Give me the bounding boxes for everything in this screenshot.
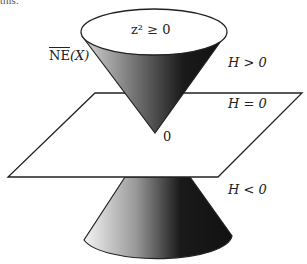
label-ne-arg: (X) [70,48,89,63]
label-origin: 0 [163,129,171,144]
cone-diagram: this. [0,0,307,264]
label-ne-main: NE [49,48,70,63]
label-z-squared: z² ≥ 0 [131,22,171,37]
label-h-zero: H = 0 [228,96,267,111]
lower-cone [84,177,232,259]
label-ne-x: NE(X) [49,48,89,63]
label-h-negative: H < 0 [228,182,267,197]
diagram-graphic [0,0,307,264]
label-h-positive: H > 0 [228,55,267,70]
